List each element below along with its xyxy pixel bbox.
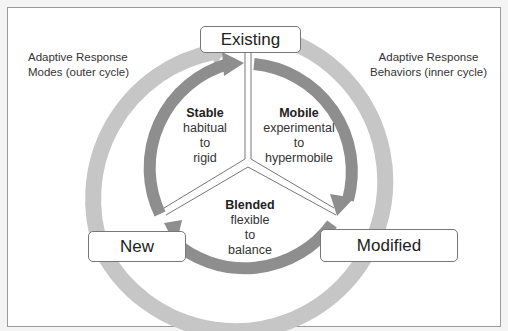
node-modified: Modified	[320, 229, 458, 262]
segment-mobile-line2: to	[254, 136, 344, 151]
node-new: New	[88, 231, 186, 262]
segment-stable-title: Stable	[170, 106, 240, 121]
segment-mobile-title: Mobile	[254, 106, 344, 121]
outer-caption-line1: Adaptive Response	[28, 50, 129, 65]
outer-cycle-ring	[93, 44, 385, 331]
segment-stable-line1: habitual	[170, 121, 240, 136]
outer-caption-line2: Modes (outer cycle)	[28, 65, 129, 80]
segment-blended: Blended flexible to balance	[210, 198, 290, 258]
segment-mobile: Mobile experimental to hypermobile	[254, 106, 344, 166]
segment-blended-line1: flexible	[210, 213, 290, 228]
segment-mobile-line3: hypermobile	[254, 151, 344, 166]
segment-blended-line2: to	[210, 228, 290, 243]
outer-cycle-caption: Adaptive Response Modes (outer cycle)	[28, 50, 129, 80]
inner-arrowhead-stable-icon	[222, 52, 244, 76]
segment-mobile-line1: experimental	[254, 121, 344, 136]
inner-caption-line2: Behaviors (inner cycle)	[370, 65, 487, 80]
segment-blended-title: Blended	[210, 198, 290, 213]
inner-caption-line1: Adaptive Response	[370, 50, 487, 65]
segment-blended-line3: balance	[210, 243, 290, 258]
node-existing: Existing	[200, 26, 301, 53]
segment-stable-line3: rigid	[170, 151, 240, 166]
inner-cycle-caption: Adaptive Response Behaviors (inner cycle…	[370, 50, 487, 80]
segment-stable-line2: to	[170, 136, 240, 151]
segment-stable: Stable habitual to rigid	[170, 106, 240, 166]
